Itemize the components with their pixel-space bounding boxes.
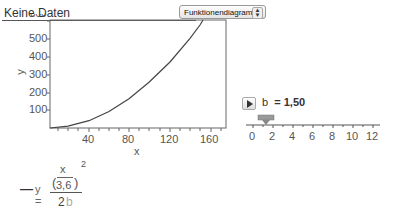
slider-tick-6: 6 xyxy=(309,130,315,142)
formula-denominator-3-6: 3,6 xyxy=(56,179,71,191)
formula-exponent: 2 xyxy=(81,159,86,169)
formula-denominator-coef: 2 xyxy=(58,195,65,209)
formula-close-paren: ) xyxy=(74,175,78,190)
y-tick-500: 500 xyxy=(29,32,47,44)
x-tick-160: 160 xyxy=(200,133,218,145)
function-curve xyxy=(50,20,203,128)
inner-fraction-bar xyxy=(57,177,73,178)
y-tick-600: 600 xyxy=(30,14,47,19)
outer-fraction-bar xyxy=(50,192,82,193)
y-tick-300: 300 xyxy=(29,68,47,80)
plot-frame xyxy=(50,20,226,128)
play-button[interactable] xyxy=(242,97,256,110)
slider-value-label: b = 1,50 xyxy=(262,96,305,108)
slider-tick-4: 4 xyxy=(289,130,295,142)
x-axis-label: x xyxy=(134,145,140,157)
y-tick-100: 100 xyxy=(29,103,47,115)
formula-numerator-x: x xyxy=(60,163,66,175)
formula-denominator-var: b xyxy=(66,195,73,209)
x-tick-80: 80 xyxy=(122,133,134,145)
slider-tick-8: 8 xyxy=(329,130,335,142)
formula-lhs: y = xyxy=(35,183,41,207)
x-axis-ticks xyxy=(58,128,221,132)
slider-tick-0: 0 xyxy=(249,130,255,142)
x-tick-120: 120 xyxy=(160,133,178,145)
y-tick-400: 400 xyxy=(29,50,47,62)
slider-thumb[interactable] xyxy=(258,115,274,125)
slider-value: 1,50 xyxy=(284,96,305,108)
slider-equals: = xyxy=(274,96,280,108)
x-tick-40: 40 xyxy=(82,133,94,145)
legend-line-icon: — xyxy=(20,181,33,196)
slider-tick-2: 2 xyxy=(269,130,275,142)
y-tick-200: 200 xyxy=(29,86,47,98)
slider-tick-10: 10 xyxy=(346,130,358,142)
y-axis-label: y xyxy=(14,69,26,75)
slider-tick-12: 12 xyxy=(366,130,378,142)
slider-var-name: b xyxy=(262,96,268,108)
